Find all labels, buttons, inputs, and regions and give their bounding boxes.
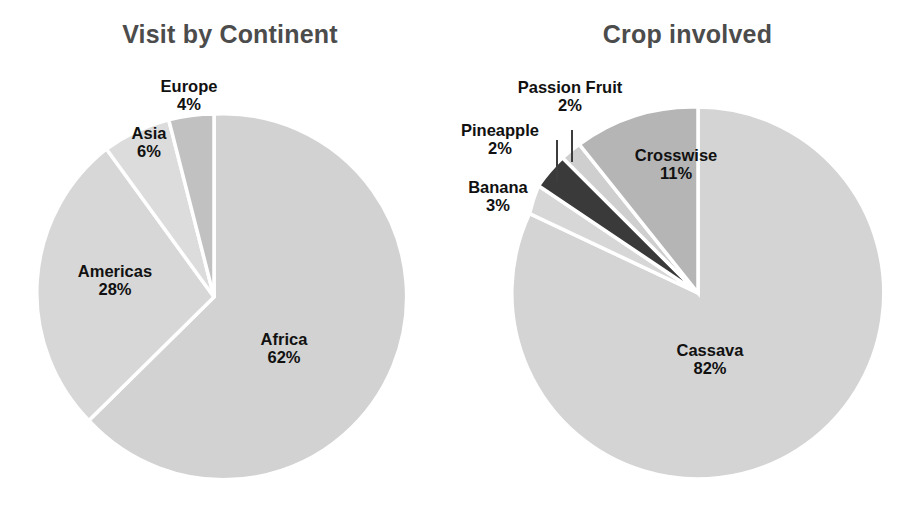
leader-line-passion-fruit: [571, 130, 573, 162]
pie-label-pineapple-value: 2%: [440, 139, 560, 157]
pie-label-passion-fruit-name: Passion Fruit: [518, 78, 623, 96]
pie-label-americas-name: Americas: [78, 262, 152, 280]
pie-label-cassava-value: 82%: [655, 359, 765, 377]
pie-label-europe-name: Europe: [161, 77, 218, 95]
pie-label-asia-name: Asia: [132, 124, 167, 142]
pie-label-passion-fruit-value: 2%: [495, 96, 645, 114]
pie-label-asia: Asia 6%: [107, 124, 191, 161]
pie-label-cassava: Cassava 82%: [655, 341, 765, 378]
pie-label-americas: Americas 28%: [50, 262, 180, 299]
pie-label-europe-value: 4%: [141, 95, 237, 113]
pie-label-crosswise: Crosswise 11%: [621, 146, 731, 183]
pie-label-asia-value: 6%: [107, 142, 191, 160]
pie-label-europe: Europe 4%: [141, 77, 237, 114]
pie-label-banana-value: 3%: [448, 196, 548, 214]
pie-label-pineapple-name: Pineapple: [461, 121, 539, 139]
pie-label-crosswise-name: Crosswise: [635, 146, 718, 164]
chart-panel-crop-involved: Crop involved: [460, 0, 915, 513]
figure-canvas: Visit by Continent Africa 62% Americas 2…: [0, 0, 915, 513]
pie-label-banana-name: Banana: [468, 178, 528, 196]
pie-label-africa-name: Africa: [261, 330, 308, 348]
pie-label-crosswise-value: 11%: [621, 164, 731, 182]
pie-label-pineapple: Pineapple 2%: [440, 121, 560, 158]
pie-label-cassava-name: Cassava: [677, 341, 744, 359]
leader-line-pineapple: [556, 140, 558, 182]
pie-label-africa: Africa 62%: [236, 330, 332, 367]
chart-panel-visit-by-continent: Visit by Continent Africa 62% Americas 2…: [0, 0, 460, 513]
pie-label-banana: Banana 3%: [448, 178, 548, 215]
pie-label-americas-value: 28%: [50, 280, 180, 298]
pie-label-africa-value: 62%: [236, 348, 332, 366]
pie-label-passion-fruit: Passion Fruit 2%: [495, 78, 645, 115]
pie-chart-crop-involved: [460, 0, 915, 513]
